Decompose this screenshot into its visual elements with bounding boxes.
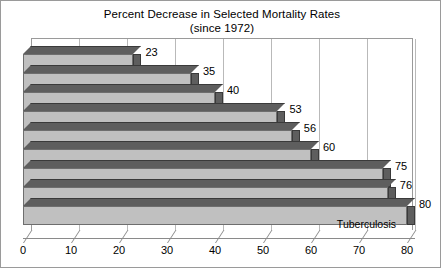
bar-value-label: 40: [227, 85, 239, 96]
x-tick-label: 20: [107, 244, 131, 256]
x-tick-label: 70: [347, 244, 371, 256]
bar-value-label: 56: [304, 123, 316, 134]
x-tick-label: 40: [203, 244, 227, 256]
bar-top-face: [23, 65, 199, 73]
bar-value-label: 53: [289, 104, 301, 115]
bar: Tuberculosis: [23, 198, 415, 217]
x-tick-label: 0: [11, 244, 35, 256]
bar-top-face: [23, 141, 319, 149]
bar-series: Suicide23Alcoholism35Homicide40Pneumonia…: [1, 1, 442, 269]
x-tick: [407, 230, 416, 240]
bar-front-face: Tuberculosis: [23, 206, 407, 225]
bar-top-face: [23, 84, 223, 92]
x-tick: [167, 230, 176, 240]
bar: Maternal Deaths: [23, 160, 391, 179]
bar: GI Diseases: [23, 179, 396, 198]
x-tick-label: 30: [155, 244, 179, 256]
bar: Infant Deaths: [23, 141, 319, 160]
bar-top-face: [23, 122, 300, 130]
bar-value-label: 76: [400, 180, 412, 191]
bar: Pneumonia/Influenza: [23, 103, 285, 122]
chart-frame: Percent Decrease in Selected Mortality R…: [0, 0, 441, 268]
x-tick: [263, 230, 272, 240]
x-tick: [119, 230, 128, 240]
bar-top-face: [23, 198, 415, 206]
x-tick: [23, 230, 32, 240]
bar-value-label: 75: [395, 161, 407, 172]
x-tick-label: 80: [395, 244, 419, 256]
bar-top-face: [23, 179, 396, 187]
x-tick: [71, 230, 80, 240]
bar-end-face: [407, 206, 415, 225]
x-tick: [311, 230, 320, 240]
x-tick-label: 60: [299, 244, 323, 256]
x-tick: [215, 230, 224, 240]
x-tick: [359, 230, 368, 240]
bar-top-face: [23, 46, 141, 54]
bar: Suicide: [23, 46, 141, 65]
bar: Homicide: [23, 84, 223, 103]
bar-value-label: 35: [203, 66, 215, 77]
bar-top-face: [23, 160, 391, 168]
bar-top-face: [23, 103, 285, 111]
bar: Accidents: [23, 122, 300, 141]
bar-value-label: 23: [145, 47, 157, 58]
x-tick-label: 10: [59, 244, 83, 256]
bar-value-label: 80: [419, 199, 431, 210]
bar-value-label: 60: [323, 142, 335, 153]
bar: Alcoholism: [23, 65, 199, 84]
x-tick-label: 50: [251, 244, 275, 256]
x-axis-tick-labels: 01020304050607080: [1, 244, 442, 260]
